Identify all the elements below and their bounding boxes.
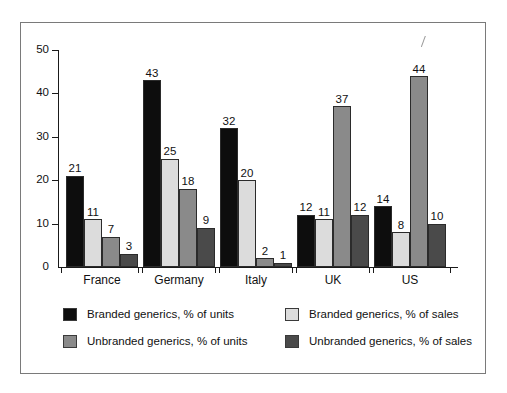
x-axis-line (58, 267, 458, 268)
scan-artifact-mark (421, 36, 427, 47)
bar-value-label: 9 (203, 215, 209, 227)
legend-label: Unbranded generics, % of units (87, 336, 247, 348)
bar-value-label: 32 (223, 116, 236, 128)
bar: 1 (274, 263, 292, 267)
bar: 32 (220, 128, 238, 267)
bar: 2 (256, 258, 274, 267)
y-tick-mark (52, 93, 59, 94)
bar-value-label: 3 (126, 241, 132, 253)
x-tick-mark (369, 267, 370, 273)
y-axis-line (58, 50, 59, 268)
bar: 43 (143, 80, 161, 267)
bar: 12 (297, 215, 315, 267)
bar-value-label: 21 (69, 163, 82, 175)
bar-value-label: 1 (280, 250, 286, 262)
legend-label: Branded generics, % of sales (309, 309, 459, 321)
category-label-germany: Germany (154, 274, 203, 286)
x-tick-mark (373, 267, 374, 273)
legend-item[interactable]: Unbranded generics, % of sales (285, 335, 472, 348)
x-tick-mark (219, 267, 220, 273)
bar: 21 (66, 176, 84, 267)
plot-area: 01020304050 2111734325189322021121137121… (58, 50, 458, 268)
y-tick-label: 50 (36, 44, 49, 56)
bar: 18 (179, 189, 197, 267)
y-tick-mark (52, 180, 59, 181)
bar-value-label: 44 (413, 64, 426, 76)
legend-label: Unbranded generics, % of sales (309, 336, 472, 348)
bar-value-label: 2 (262, 246, 268, 258)
y-tick-mark (52, 50, 59, 51)
legend-swatch (285, 308, 299, 321)
bar: 44 (410, 76, 428, 267)
legend-item[interactable]: Branded generics, % of units (63, 308, 234, 321)
bar-value-label: 14 (377, 194, 390, 206)
bar-value-label: 11 (87, 207, 99, 219)
category-label-uk: UK (325, 274, 342, 286)
legend-swatch (63, 335, 77, 348)
legend-swatch (285, 335, 299, 348)
category-label-france: France (83, 274, 120, 286)
y-tick-label: 10 (36, 218, 49, 230)
bar-value-label: 18 (182, 176, 195, 188)
bar: 7 (102, 237, 120, 267)
bar-value-label: 10 (431, 211, 444, 223)
bar-value-label: 43 (146, 68, 159, 80)
bar-value-label: 25 (164, 146, 177, 158)
category-label-us: US (402, 274, 419, 286)
legend-item[interactable]: Unbranded generics, % of units (63, 335, 247, 348)
bar: 11 (84, 219, 102, 267)
bar: 20 (238, 180, 256, 267)
y-tick-label: 40 (36, 88, 49, 100)
bar-group-uk: 12113712 (297, 50, 369, 267)
x-tick-mark (215, 267, 216, 273)
x-tick-mark (138, 267, 139, 273)
y-tick-mark (52, 137, 59, 138)
chart-legend: Branded generics, % of unitsBranded gene… (63, 308, 463, 360)
bar: 9 (197, 228, 215, 267)
bar-value-label: 20 (241, 168, 254, 180)
bar-group-italy: 322021 (220, 50, 292, 267)
x-tick-mark (450, 267, 451, 273)
category-label-italy: Italy (245, 274, 267, 286)
y-tick-mark (52, 224, 59, 225)
legend-swatch (63, 308, 77, 321)
bar: 10 (428, 224, 446, 267)
bar-value-label: 7 (108, 224, 114, 236)
y-tick-label: 20 (36, 174, 49, 186)
x-tick-mark (142, 267, 143, 273)
bar-group-france: 211173 (66, 50, 138, 267)
x-tick-mark (296, 267, 297, 273)
bar: 8 (392, 232, 410, 267)
bar: 3 (120, 254, 138, 267)
bar: 11 (315, 219, 333, 267)
legend-label: Branded generics, % of units (87, 309, 234, 321)
bar: 37 (333, 106, 351, 267)
bar-value-label: 11 (318, 207, 330, 219)
y-tick-label: 0 (43, 261, 49, 273)
x-tick-mark (292, 267, 293, 273)
x-tick-mark (61, 267, 62, 273)
legend-item[interactable]: Branded generics, % of sales (285, 308, 459, 321)
bar: 12 (351, 215, 369, 267)
chart-figure: 01020304050 2111734325189322021121137121… (0, 0, 507, 393)
bar: 25 (161, 159, 179, 268)
bar: 14 (374, 206, 392, 267)
y-tick-label: 30 (36, 131, 49, 143)
bar-value-label: 8 (398, 220, 404, 232)
bar-value-label: 37 (336, 94, 349, 106)
bar-value-label: 12 (300, 202, 313, 214)
bar-value-label: 12 (354, 202, 367, 214)
bar-group-us: 1484410 (374, 50, 446, 267)
bar-group-germany: 4325189 (143, 50, 215, 267)
